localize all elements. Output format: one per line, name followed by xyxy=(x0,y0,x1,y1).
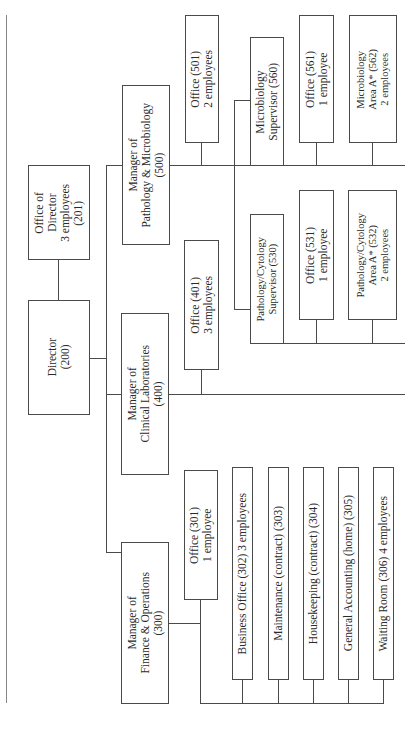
node-label-line: General Accounting (home) (305) xyxy=(342,495,355,651)
node-label-line: (400) xyxy=(151,345,164,442)
node-label-line: Supervisor (560) xyxy=(267,63,280,141)
node-label-line: 2 employees xyxy=(379,49,391,110)
page-edge-rule xyxy=(6,15,7,703)
node-label-line: 3 employees xyxy=(202,276,215,334)
main-bus-vertical xyxy=(106,165,107,553)
node-office-401: Office (401)3 employees xyxy=(184,240,219,370)
node-maintenance: Maintenance (contract) (303) xyxy=(268,467,289,680)
node-label-line: 2 employees xyxy=(202,50,215,108)
node-label-line: Office (401) xyxy=(189,276,202,334)
node-pathology-cytology-area-a: Pathology/CytologyArea A* (532)2 employe… xyxy=(348,190,397,320)
node-label-line: Office (501) xyxy=(189,50,202,108)
node-label-line: (201) xyxy=(72,184,85,242)
node-label-line: Finance & Operations xyxy=(139,572,152,674)
connector-bus-to-300 xyxy=(106,552,122,553)
node-label-line: Director xyxy=(46,338,59,376)
connector-to-302 xyxy=(242,680,243,703)
node-label-line: Waiting Room (306) 4 employees xyxy=(377,496,390,652)
node-office-561: Office (561)1 employee xyxy=(299,15,334,143)
connector-director-to-office xyxy=(58,260,59,300)
node-director: Director(200) xyxy=(28,300,90,415)
node-label-line: Housekeeping (contract) (304) xyxy=(307,503,320,644)
node-label-line: Office (561) xyxy=(304,51,317,108)
node-label-line: Manager of xyxy=(126,345,139,442)
node-label-line: Microbiology xyxy=(355,49,367,110)
node-label-line: (200) xyxy=(59,338,72,376)
node-microbiology-area-a: MicrobiologyArea A* (562)2 employees xyxy=(349,15,397,143)
node-label-line: (500) xyxy=(152,103,165,228)
node-label-line: Pathology/Cytology xyxy=(355,213,367,298)
connector-560-to-561 xyxy=(316,143,317,165)
node-label-line: 1 employee xyxy=(201,507,214,564)
line-500-sub-vertical xyxy=(234,100,235,310)
node-office-of-director: Office ofDirector3 employees(201) xyxy=(28,165,90,260)
node-label-line: Pathology & Microbiology xyxy=(140,103,153,228)
node-office-501: Office (501)2 employees xyxy=(185,15,219,143)
node-label-line: Office (531) xyxy=(304,227,317,284)
connector-500-to-501 xyxy=(201,143,202,165)
connector-530-to-532 xyxy=(372,320,373,343)
line-300-sub-vertical xyxy=(200,600,201,704)
node-office-301: Office (301)1 employee xyxy=(184,470,218,600)
node-manager-pathology-microbiology: Manager ofPathology & Microbiology(500) xyxy=(122,85,170,245)
node-pathology-cytology-supervisor: Pathology/CytologySupervisor (530) xyxy=(250,214,284,344)
node-label-line: Maintenance (contract) (303) xyxy=(272,506,285,641)
connector-to-305 xyxy=(348,680,349,703)
node-label-line: Office of xyxy=(33,184,46,242)
node-manager-finance-operations: Manager ofFinance & Operations(300) xyxy=(121,542,169,704)
connector-bus-to-400 xyxy=(106,394,122,395)
node-label-line: Pathology/Cytology xyxy=(255,237,267,322)
node-general-accounting: General Accounting (home) (305) xyxy=(338,467,359,680)
node-label-line: 2 employees xyxy=(378,213,390,298)
connector-director-to-bus xyxy=(90,358,106,359)
node-label-line: Manager of xyxy=(126,572,139,674)
node-label-line: Clinical Laboratories xyxy=(139,345,152,442)
connector-to-304 xyxy=(313,680,314,703)
connector-bus-to-500 xyxy=(106,165,122,166)
node-label-line: Area A* (562) xyxy=(367,49,379,110)
line-400-horizontal xyxy=(169,394,405,395)
node-waiting-room: Waiting Room (306) 4 employees xyxy=(373,467,394,680)
node-manager-clinical-laboratories: Manager ofClinical Laboratories(400) xyxy=(121,313,169,475)
node-label-line: Manager of xyxy=(127,103,140,228)
connector-530-to-531 xyxy=(316,320,317,343)
node-label-line: 3 employees xyxy=(59,184,72,242)
node-label-line: (300) xyxy=(151,572,164,674)
connector-400-to-401 xyxy=(201,370,202,394)
connector-560-to-562 xyxy=(372,143,373,165)
node-label-line: Supervisor (530) xyxy=(267,237,279,322)
node-microbiology-supervisor: MicrobiologySupervisor (560) xyxy=(250,37,284,166)
node-office-531: Office (531)1 employee xyxy=(299,190,334,320)
line-300-horizontal xyxy=(169,623,201,624)
connector-to-303 xyxy=(278,680,279,703)
connector-to-560 xyxy=(234,100,250,101)
node-label-line: Office (301) xyxy=(188,507,201,564)
line-300-bottom-bus xyxy=(200,703,384,704)
connector-to-306 xyxy=(383,680,384,703)
node-label-line: Business Office (302) 3 employees xyxy=(236,493,249,654)
node-label-line: Director xyxy=(46,184,59,242)
node-label-line: Area A* (532) xyxy=(367,213,379,298)
node-label-line: Microbiology xyxy=(254,63,267,141)
node-label-line: 1 employee xyxy=(317,51,330,108)
node-housekeeping: Housekeeping (contract) (304) xyxy=(303,467,324,680)
connector-to-530 xyxy=(234,309,250,310)
node-business-office: Business Office (302) 3 employees xyxy=(232,467,253,680)
node-label-line: 1 employee xyxy=(317,227,330,284)
